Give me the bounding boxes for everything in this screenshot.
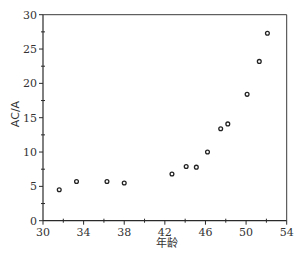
x-axis-title: 年龄 [156, 236, 178, 250]
x-tick-label: 50 [239, 226, 253, 239]
data-point-marker [184, 165, 188, 169]
data-point-marker [75, 180, 79, 184]
x-tick-label: 54 [280, 226, 294, 239]
x-ticks: 30343842465054 [36, 219, 294, 239]
x-tick-label: 46 [198, 226, 212, 239]
scatter-chart: 051015202530 30343842465054 年龄 AC/A [0, 0, 305, 260]
y-tick-label: 5 [30, 180, 37, 193]
data-point-marker [257, 59, 261, 63]
data-point-marker [194, 165, 198, 169]
y-tick-label: 20 [23, 77, 37, 90]
data-point-marker [226, 122, 230, 126]
y-ticks: 051015202530 [23, 9, 45, 228]
data-point-marker [245, 92, 249, 96]
data-point-marker [266, 31, 270, 35]
y-axis-title: AC/A [9, 100, 22, 127]
x-tick-label: 38 [117, 226, 131, 239]
x-tick-label: 30 [36, 226, 50, 239]
data-point-marker [105, 180, 109, 184]
data-point-marker [206, 150, 210, 154]
y-tick-label: 10 [23, 146, 37, 159]
y-tick-label: 25 [23, 43, 37, 56]
y-tick-label: 30 [23, 9, 37, 22]
data-point-marker [170, 172, 174, 176]
x-tick-label: 34 [77, 226, 91, 239]
plot-frame [43, 15, 287, 221]
data-point-marker [219, 127, 223, 131]
data-point-marker [122, 181, 126, 185]
data-points [57, 31, 269, 191]
data-point-marker [57, 188, 61, 192]
y-tick-label: 15 [23, 112, 37, 125]
